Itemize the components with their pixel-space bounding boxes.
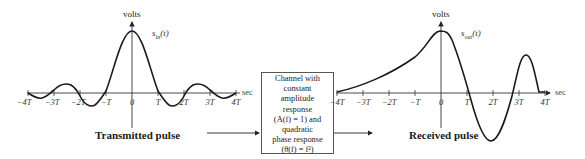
- signal-argument: (t): [160, 28, 169, 38]
- right-tick: 2T: [489, 98, 498, 107]
- channel-line: constant: [262, 84, 333, 94]
- left-signal-label: sin(t): [152, 29, 169, 40]
- channel-line: amplitude: [262, 94, 333, 104]
- left-tick: −4T: [17, 98, 32, 107]
- channel-line: Channel with: [262, 74, 333, 84]
- channel-line: (θ(f) = f²): [262, 145, 333, 155]
- right-tick: −T: [410, 98, 420, 107]
- left-plot-axes: [27, 22, 240, 128]
- right-y-axis-label: volts: [432, 10, 450, 19]
- right-tick: T: [465, 98, 470, 107]
- channel-box: Channel with constant amplitude response…: [261, 72, 334, 154]
- right-tick: 3T: [515, 98, 524, 107]
- right-tick: −3T: [356, 98, 371, 107]
- right-signal-label: sout(t): [461, 29, 481, 40]
- left-y-axis-label: volts: [123, 10, 141, 19]
- left-x-unit: sec: [242, 88, 253, 97]
- right-plot-title: Received pulse: [409, 130, 478, 141]
- right-tick: 0: [439, 98, 443, 107]
- left-tick: 3T: [206, 98, 215, 107]
- left-plot-title: Transmitted pulse: [95, 130, 180, 141]
- right-x-unit: sec: [555, 88, 566, 97]
- left-tick: −2T: [71, 98, 86, 107]
- left-tick: T: [156, 98, 161, 107]
- left-tick: 4T: [232, 98, 241, 107]
- left-tick: 2T: [180, 98, 189, 107]
- left-tick: −T: [101, 98, 111, 107]
- right-tick: 4T: [541, 98, 550, 107]
- channel-line: quadratic: [262, 125, 333, 135]
- right-tick: −2T: [382, 98, 397, 107]
- channel-line: (A(f) = 1) and: [262, 115, 333, 125]
- channel-line: response: [262, 105, 333, 115]
- right-plot-axes: [336, 22, 550, 128]
- left-tick: 0: [130, 98, 134, 107]
- left-tick: −3T: [45, 98, 60, 107]
- channel-line: phase response: [262, 135, 333, 145]
- signal-argument: (t): [472, 28, 481, 38]
- right-tick: −4T: [330, 98, 345, 107]
